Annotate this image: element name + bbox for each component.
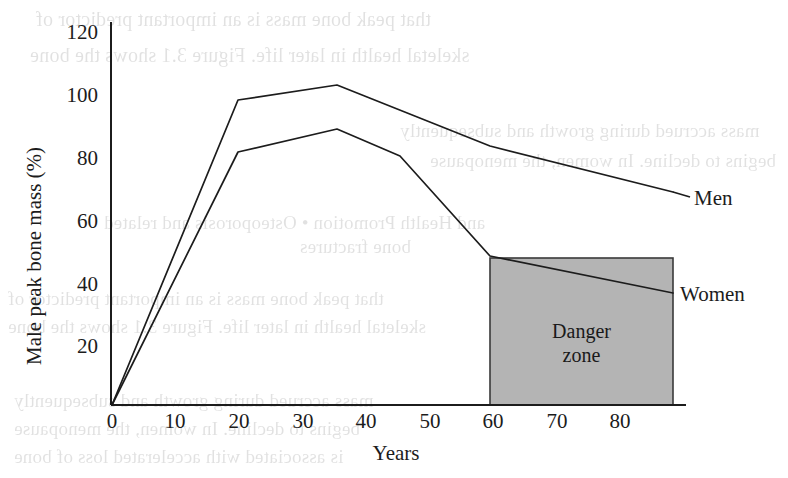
bone-mass-line-chart: 120 100 80 60 40 20 0 10 20 30 40 50 60 … bbox=[0, 0, 788, 478]
x-tick-label-30: 30 bbox=[280, 409, 326, 434]
x-tick-label-10: 10 bbox=[152, 409, 198, 434]
y-tick-label-60: 60 bbox=[52, 209, 98, 234]
y-tick-label-40: 40 bbox=[52, 272, 98, 297]
series-label-women: Women bbox=[680, 282, 745, 307]
danger-zone-label-line2: zone bbox=[490, 344, 673, 368]
danger-zone-label-line1: Danger bbox=[490, 320, 673, 344]
series-label-men: Men bbox=[694, 186, 733, 211]
y-tick-label-120: 120 bbox=[52, 20, 98, 45]
y-tick-label-80: 80 bbox=[52, 146, 98, 171]
men-leader-line bbox=[673, 192, 690, 197]
x-axis-title: Years bbox=[336, 441, 456, 466]
chart-canvas bbox=[0, 0, 788, 478]
x-tick-label-20: 20 bbox=[216, 409, 262, 434]
y-axis-title: Male peak bone mass (%) bbox=[22, 147, 47, 365]
y-tick-label-100: 100 bbox=[52, 83, 98, 108]
x-tick-label-60: 60 bbox=[470, 409, 516, 434]
x-tick-label-80: 80 bbox=[597, 409, 643, 434]
danger-zone-label: Danger zone bbox=[490, 320, 673, 367]
x-tick-label-70: 70 bbox=[534, 409, 580, 434]
x-tick-label-50: 50 bbox=[407, 409, 453, 434]
y-tick-label-20: 20 bbox=[52, 334, 98, 359]
x-tick-label-40: 40 bbox=[343, 409, 389, 434]
x-tick-label-0: 0 bbox=[89, 409, 135, 434]
